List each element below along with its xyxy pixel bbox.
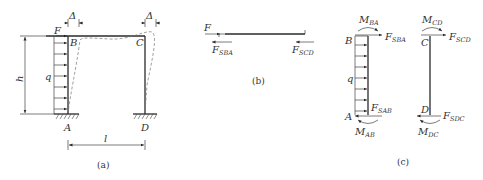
dimension-l: l (68, 133, 145, 150)
label-f: F (53, 25, 62, 36)
figure-c: MBA FSBA B q FSAB A MAB MCD FSCD C D FSD… (344, 14, 471, 167)
figure-b: F FSBA FSCD (b) (203, 22, 314, 86)
label-mab: MAB (354, 126, 375, 139)
svg-text:l: l (104, 133, 107, 144)
fixed-support-d (133, 114, 157, 119)
label-q-c: q (347, 73, 353, 84)
delta-marker-right: Δ (141, 10, 160, 27)
moment-mdc-arc (420, 120, 440, 124)
label-fsab: FSAB (370, 102, 392, 115)
svg-text:Δ: Δ (68, 10, 76, 21)
label-c-c: C (421, 37, 429, 48)
label-d: D (140, 122, 149, 133)
label-b: B (69, 37, 77, 48)
fixed-support-a (54, 114, 79, 119)
label-f-b: F (203, 22, 212, 33)
portal-frame-diagram: Δ Δ h l F B (0, 0, 483, 180)
label-mba: MBA (358, 14, 379, 27)
svg-text:Δ: Δ (145, 10, 153, 21)
label-d-c: D (420, 104, 429, 115)
moment-mba-arc (358, 28, 378, 32)
label-mdc: MDC (417, 126, 438, 139)
label-mcd: MCD (421, 14, 443, 27)
moment-mab-arc (358, 120, 378, 124)
label-b-c: B (344, 35, 352, 46)
label-q: q (45, 71, 51, 82)
caption-c: (c) (397, 157, 409, 167)
label-a-c: A (344, 111, 352, 122)
label-fscd-b: FSCD (291, 44, 314, 57)
delta-marker-left: Δ (64, 10, 83, 27)
label-fsba-c: FSBA (384, 31, 406, 44)
caption-b: (b) (252, 76, 265, 86)
label-a: A (63, 122, 71, 133)
label-fsdc: FSDC (442, 110, 465, 123)
distributed-load-q-c (355, 36, 368, 115)
caption-a: (a) (97, 160, 109, 170)
label-c: C (136, 37, 144, 48)
figure-a: Δ Δ h l F B (14, 10, 160, 170)
svg-text:h: h (14, 76, 25, 82)
label-fsba-b: FSBA (211, 44, 233, 57)
distributed-load-q (54, 36, 67, 114)
moment-mcd-arc (422, 28, 442, 32)
label-fscd-c: FSCD (448, 31, 471, 44)
